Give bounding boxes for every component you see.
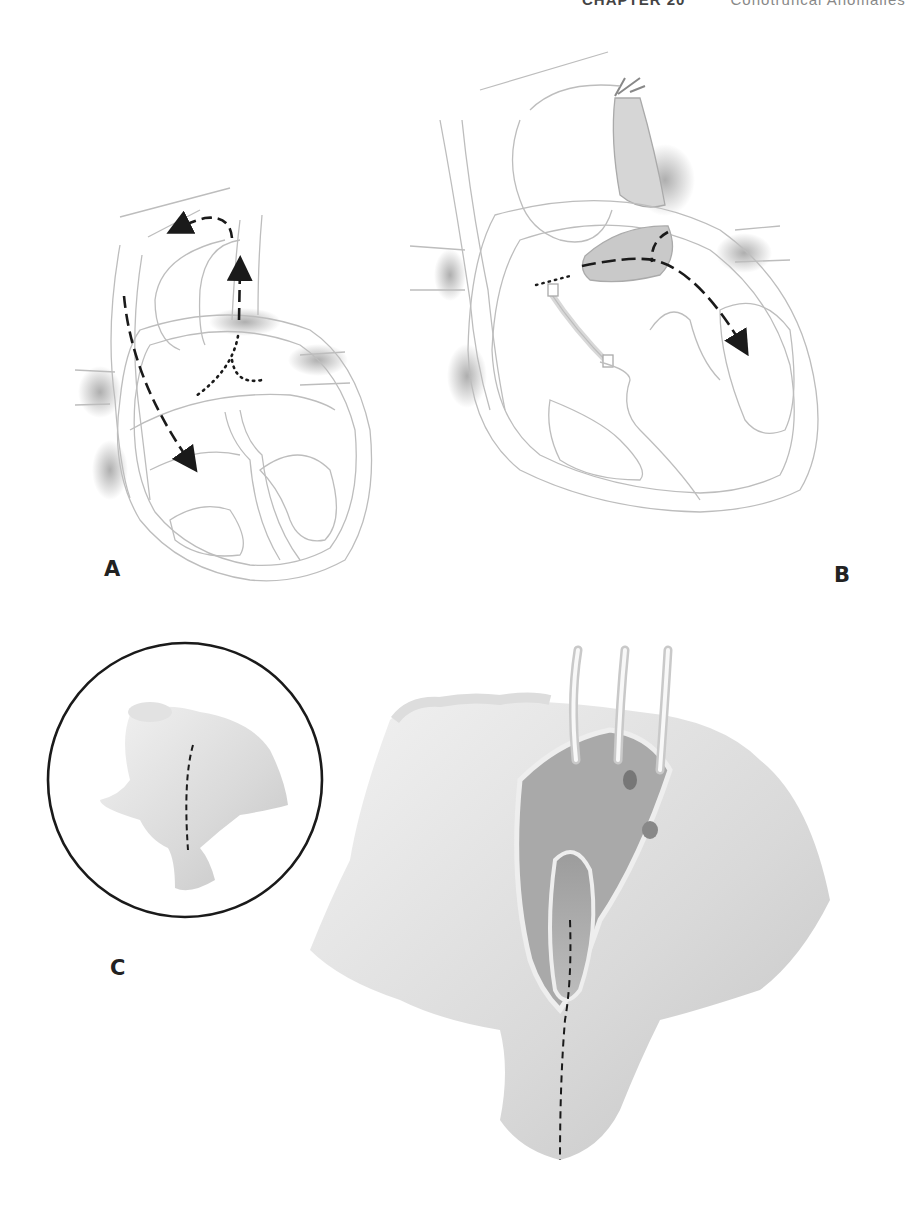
panel-c-opened-view	[310, 650, 830, 1160]
panel-c-inset	[48, 643, 322, 917]
panel-a-heart-drawing	[75, 188, 372, 581]
panel-a-dotted-incision	[196, 336, 262, 396]
panel-b-label: B	[834, 563, 850, 587]
panel-c-label: C	[110, 956, 125, 980]
panel-b-heart-drawing	[410, 52, 818, 512]
panel-a-label: A	[104, 557, 121, 581]
